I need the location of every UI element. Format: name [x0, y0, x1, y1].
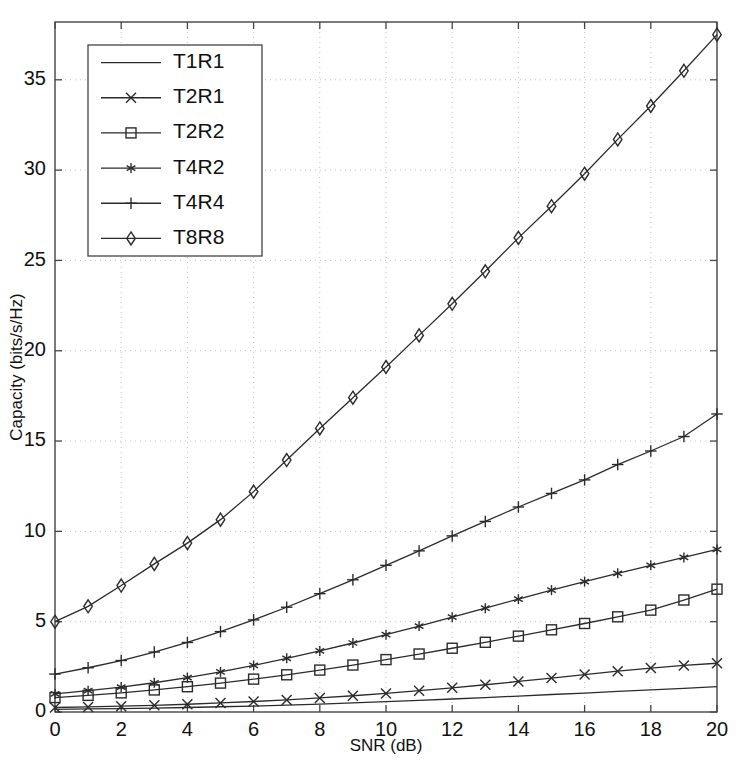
y-tick-label: 35 [24, 67, 46, 89]
y-tick-label: 10 [24, 519, 46, 541]
x-tick-label: 2 [116, 718, 127, 740]
y-tick-label: 30 [24, 157, 46, 179]
x-tick-label: 14 [507, 718, 529, 740]
x-tick-label: 4 [182, 718, 193, 740]
x-tick-label: 6 [248, 718, 259, 740]
y-tick-label: 0 [35, 699, 46, 721]
y-axis-title: Capacity (bits/s/Hz) [7, 293, 26, 440]
legend-label-T4R2: T4R2 [173, 155, 224, 178]
x-tick-label: 0 [49, 718, 60, 740]
y-tick-label: 5 [35, 609, 46, 631]
chart-canvas: 0246810121416182005101520253035 T1R1T2R1… [0, 0, 742, 765]
y-tick-label: 20 [24, 338, 46, 360]
x-axis-title: SNR (dB) [350, 736, 423, 755]
y-tick-label: 15 [24, 428, 46, 450]
x-tick-label: 8 [314, 718, 325, 740]
x-tick-label: 18 [640, 718, 662, 740]
legend-label-T2R1: T2R1 [173, 84, 224, 107]
legend-label-T4R4: T4R4 [173, 190, 225, 213]
legend-label-T1R1: T1R1 [173, 49, 224, 72]
chart-legend[interactable]: T1R1T2R1T2R2T4R2T4R4T8R8 [88, 45, 262, 256]
legend-label-T8R8: T8R8 [173, 225, 224, 248]
y-tick-label: 25 [24, 248, 46, 270]
capacity-vs-snr-figure: 0246810121416182005101520253035 T1R1T2R1… [0, 0, 742, 765]
x-tick-label: 16 [573, 718, 595, 740]
x-tick-label: 12 [441, 718, 463, 740]
legend-label-T2R2: T2R2 [173, 119, 224, 142]
x-tick-label: 20 [706, 718, 728, 740]
